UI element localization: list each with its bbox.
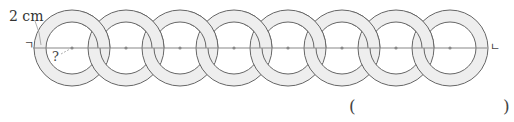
center-dot: [340, 46, 343, 49]
center-dot: [394, 46, 397, 49]
center-dot: [286, 46, 289, 49]
unknown-length-label: ?: [52, 50, 59, 63]
answer-open-paren: (: [349, 96, 356, 116]
answer-close-paren: ): [503, 96, 510, 116]
dimension-label: 2 cm: [9, 9, 43, 23]
center-dot: [178, 46, 181, 49]
answer-blank[interactable]: [362, 94, 498, 116]
radius-dashed-line: [61, 49, 70, 54]
center-dot: [124, 46, 127, 49]
point-b-label: ㄴ: [490, 42, 500, 53]
center-dot: [70, 46, 73, 49]
center-dot: [232, 46, 235, 49]
center-dot: [448, 46, 451, 49]
point-a-label: ㄱ: [24, 40, 34, 51]
